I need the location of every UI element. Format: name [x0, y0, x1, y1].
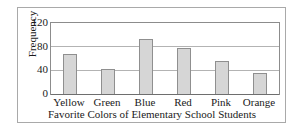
x-tick-label-blue: Blue — [126, 95, 164, 109]
bar-pink — [215, 61, 229, 94]
y-tick-label: 0 — [22, 88, 48, 99]
bar-slot — [51, 23, 89, 94]
chart-figure: Frequency 120 80 40 0 — [0, 0, 304, 132]
bar-yellow — [63, 54, 77, 94]
plot-area — [50, 22, 280, 95]
bar-orange — [253, 73, 267, 94]
bar-slot — [89, 23, 127, 94]
bar-slot — [127, 23, 165, 94]
plot-inner — [51, 23, 279, 94]
y-tick-label: 120 — [22, 17, 48, 28]
bar-red — [177, 48, 191, 94]
x-tick-label-red: Red — [164, 95, 202, 109]
bar-slot — [203, 23, 241, 94]
x-tick-label-green: Green — [88, 95, 126, 109]
x-tick-label-pink: Pink — [202, 95, 240, 109]
x-axis-tick-labels: Yellow Green Blue Red Pink Orange — [50, 95, 278, 109]
bar-slot — [165, 23, 203, 94]
y-tick-label: 80 — [22, 41, 48, 52]
x-tick-label-orange: Orange — [240, 95, 278, 109]
x-axis-label: Favorite Colors of Elementary School Stu… — [18, 108, 286, 120]
y-tick-label: 40 — [22, 64, 48, 75]
bar-green — [101, 69, 115, 94]
bar-series — [51, 23, 279, 94]
x-tick-label-yellow: Yellow — [50, 95, 88, 109]
bar-blue — [139, 39, 153, 94]
bar-slot — [241, 23, 279, 94]
